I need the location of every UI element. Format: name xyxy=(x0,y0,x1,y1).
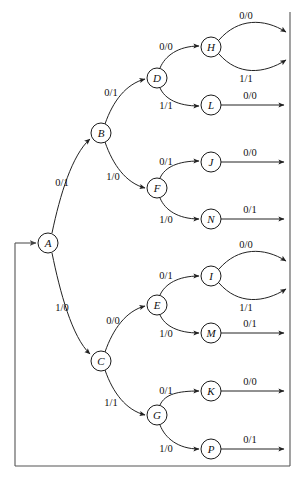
edge-label-f-j: 0/1 xyxy=(159,156,172,167)
edge-label-h-out-00: 0/0 xyxy=(239,10,252,21)
edge-label-l-out: 0/0 xyxy=(243,90,256,101)
edge-label-j-out: 0/0 xyxy=(243,147,256,158)
edge-c-g xyxy=(105,370,145,415)
node-l-label: L xyxy=(207,99,214,111)
node-m-label: M xyxy=(205,327,216,339)
edge-label-g-k: 0/1 xyxy=(159,385,172,396)
node-f-label: F xyxy=(153,182,161,194)
edge-i-out-11 xyxy=(219,283,286,300)
edge-h-out-11 xyxy=(219,54,286,71)
node-p-label: P xyxy=(207,443,215,455)
node-h[interactable]: H xyxy=(201,37,221,57)
node-f[interactable]: F xyxy=(147,178,167,198)
nodes: A B C D F E G H xyxy=(38,37,221,459)
edge-label-i-out-00: 0/0 xyxy=(239,239,252,250)
edge-i-out-00 xyxy=(219,251,286,269)
node-k[interactable]: K xyxy=(201,381,221,401)
edge-label-d-l: 1/1 xyxy=(159,100,172,111)
node-c[interactable]: C xyxy=(91,351,111,371)
node-e-label: E xyxy=(153,299,161,311)
node-k-label: K xyxy=(206,385,215,397)
node-c-label: C xyxy=(97,355,105,367)
edge-label-e-m: 1/0 xyxy=(159,328,172,339)
node-g[interactable]: G xyxy=(147,405,167,425)
node-d[interactable]: D xyxy=(147,68,167,88)
edge-label-d-h: 0/0 xyxy=(159,41,172,52)
node-i[interactable]: I xyxy=(201,266,221,286)
edge-label-g-p: 1/0 xyxy=(159,443,172,454)
node-a-label: A xyxy=(44,237,52,249)
node-a[interactable]: A xyxy=(38,233,58,253)
node-g-label: G xyxy=(153,409,161,421)
edge-label-f-n: 1/0 xyxy=(159,214,172,225)
node-b[interactable]: B xyxy=(91,123,111,143)
edge-label-i-out-11: 1/1 xyxy=(239,302,252,313)
node-l[interactable]: L xyxy=(201,95,221,115)
tree-edges xyxy=(52,46,199,449)
node-m[interactable]: M xyxy=(201,323,221,343)
edge-label-n-out: 0/1 xyxy=(243,204,256,215)
node-d-label: D xyxy=(152,72,161,84)
edge-label-k-out: 0/0 xyxy=(243,376,256,387)
node-n-label: N xyxy=(206,213,215,225)
edge-label-c-g: 1/1 xyxy=(104,397,117,408)
edge-h-out-00 xyxy=(219,22,286,40)
node-e[interactable]: E xyxy=(147,295,167,315)
node-b-label: B xyxy=(98,127,105,139)
edge-label-a-c: 1/0 xyxy=(55,302,68,313)
node-h-label: H xyxy=(206,41,216,53)
edge-label-m-out: 0/1 xyxy=(243,318,256,329)
edge-label-b-d: 0/1 xyxy=(104,87,117,98)
edge-label-b-f: 1/0 xyxy=(106,171,119,182)
edge-label-p-out: 0/1 xyxy=(243,434,256,445)
state-transition-diagram: A B C D F E G H xyxy=(0,0,303,479)
edge-label-c-e: 0/0 xyxy=(106,315,119,326)
node-p[interactable]: P xyxy=(201,439,221,459)
node-n[interactable]: N xyxy=(201,209,221,229)
diagram-canvas: A B C D F E G H xyxy=(0,0,303,479)
edge-c-e xyxy=(105,306,145,352)
edge-label-h-out-11: 1/1 xyxy=(239,73,252,84)
node-j[interactable]: J xyxy=(201,152,221,172)
edge-label-e-i: 0/1 xyxy=(159,270,172,281)
edge-label-a-b: 0/1 xyxy=(55,177,68,188)
